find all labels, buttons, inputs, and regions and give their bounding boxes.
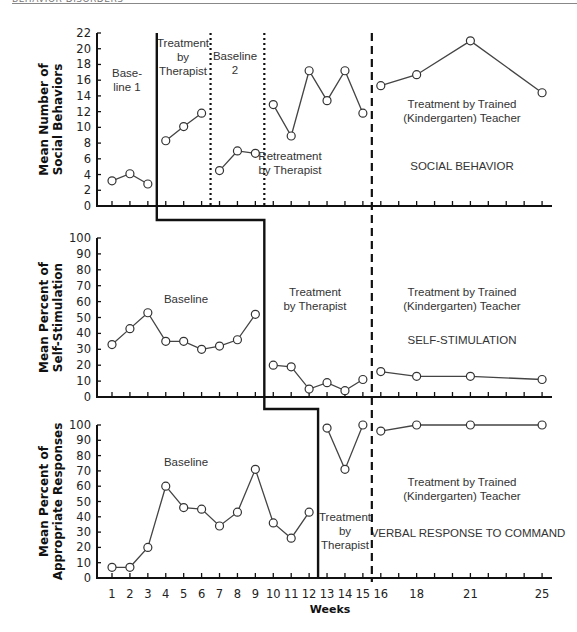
verbal-data-point	[216, 522, 224, 530]
verbal-data-point	[162, 482, 170, 490]
selfstim-phase-label: (Kindergarten) Teacher	[403, 300, 521, 312]
selfstim-y-tick-label: 70	[76, 279, 91, 293]
verbal-data-point	[144, 543, 152, 551]
selfstim-axes	[97, 238, 552, 397]
x-tick-label: 8	[234, 587, 241, 601]
x-tick-label: 16	[373, 587, 388, 601]
selfstim-data-point	[180, 337, 188, 345]
verbal-y-tick-label: 50	[76, 495, 91, 509]
verbal-series-line	[381, 425, 542, 431]
social-phase-label: Treatment	[157, 37, 210, 49]
selfstim-y-tick-label: 0	[84, 390, 91, 404]
selfstim-data-point	[359, 376, 367, 384]
verbal-y-tick-label: 30	[76, 525, 91, 539]
selfstim-data-point	[251, 310, 259, 318]
x-tick-label: 4	[162, 587, 169, 601]
selfstim-y-tick-label: 30	[76, 342, 91, 356]
selfstim-y-tick-label: 50	[76, 311, 91, 325]
x-tick-label: 6	[198, 587, 205, 601]
social-data-point	[233, 147, 241, 155]
social-y-tick-label: 2	[84, 183, 91, 197]
verbal-data-point	[251, 465, 259, 473]
verbal-panel-title: VERBAL RESPONSE TO COMMAND	[371, 527, 566, 539]
verbal-phase-label: Treatment by Trained	[408, 476, 517, 488]
social-y-tick-label: 10	[76, 120, 91, 134]
x-tick-label: 3	[144, 587, 151, 601]
verbal-y-tick-label: 100	[69, 418, 91, 432]
selfstim-y-tick-label: 10	[76, 374, 91, 388]
social-phase-label: Retreatment	[258, 150, 322, 162]
verbal-y-tick-label: 10	[76, 556, 91, 570]
social-phase-label: by Therapist	[258, 164, 322, 176]
selfstim-data-point	[126, 325, 134, 333]
social-phase-label: by	[177, 51, 189, 63]
x-tick-label: 9	[252, 587, 259, 601]
verbal-data-point	[233, 508, 241, 516]
x-tick-label: 21	[463, 587, 478, 601]
verbal-y-tick-label: 60	[76, 479, 91, 493]
social-series-line	[273, 71, 363, 136]
social-y-tick-label: 6	[84, 152, 91, 166]
social-data-point	[198, 109, 206, 117]
verbal-y-tick-label: 90	[76, 433, 91, 447]
selfstim-data-point	[287, 363, 295, 371]
verbal-y-tick-label: 70	[76, 464, 91, 478]
social-phase-label: Therapist	[159, 65, 208, 77]
verbal-phase-label: by	[339, 525, 351, 537]
selfstim-series-line	[381, 372, 542, 380]
selfstim-data-point	[216, 342, 224, 350]
verbal-data-point	[305, 508, 313, 516]
x-tick-label: 7	[216, 587, 223, 601]
verbal-data-point	[108, 563, 116, 571]
verbal-y-tick-label: 40	[76, 510, 91, 524]
verbal-y-tick-label: 0	[84, 571, 91, 585]
verbal-data-point	[287, 534, 295, 542]
social-data-point	[413, 71, 421, 79]
selfstim-y-tick-label: 20	[76, 358, 91, 372]
selfstim-data-point	[198, 345, 206, 353]
selfstim-data-point	[162, 337, 170, 345]
selfstim-data-point	[269, 361, 277, 369]
selfstim-data-point	[341, 387, 349, 395]
x-tick-label: 15	[356, 587, 371, 601]
x-tick-label: 2	[126, 587, 133, 601]
selfstim-y-tick-label: 60	[76, 295, 91, 309]
verbal-series-line	[327, 425, 363, 469]
verbal-data-point	[413, 421, 421, 429]
social-series-line	[381, 41, 542, 93]
x-tick-label: 11	[284, 587, 299, 601]
social-data-point	[108, 177, 116, 185]
verbal-data-point	[538, 421, 546, 429]
social-data-point	[466, 37, 474, 45]
selfstim-data-point	[413, 372, 421, 380]
verbal-y-tick-label: 20	[76, 540, 91, 554]
x-tick-label: 1	[108, 587, 115, 601]
social-data-point	[180, 123, 188, 131]
selfstim-phase-label: by Therapist	[283, 300, 347, 312]
x-tick-label: 14	[338, 587, 353, 601]
social-data-point	[359, 109, 367, 117]
selfstim-data-point	[108, 341, 116, 349]
verbal-y-tick-label: 80	[76, 449, 91, 463]
social-y-tick-label: 20	[76, 42, 91, 56]
selfstim-phase-label: Baseline	[164, 293, 208, 305]
verbal-phase-label: Therapist	[321, 539, 370, 551]
social-data-point	[305, 67, 313, 75]
social-y-axis-label: Social Behaviors	[51, 64, 65, 176]
social-y-tick-label: 14	[76, 89, 91, 103]
selfstim-y-axis-label: Mean Percent of	[37, 261, 51, 373]
selfstim-panel-title: SELF-STIMULATION	[407, 334, 516, 346]
x-tick-label: 25	[535, 587, 550, 601]
selfstim-data-point	[144, 309, 152, 317]
social-data-point	[377, 82, 385, 90]
selfstim-data-point	[538, 376, 546, 384]
social-data-point	[538, 89, 546, 97]
selfstim-data-point	[377, 368, 385, 376]
x-tick-label: 12	[302, 587, 317, 601]
selfstim-y-axis-label: Self-Stimulation	[51, 263, 65, 372]
verbal-data-point	[359, 421, 367, 429]
selfstim-y-tick-label: 80	[76, 263, 91, 277]
social-phase-label: Baseline	[213, 50, 257, 62]
verbal-data-point	[341, 465, 349, 473]
verbal-data-point	[323, 424, 331, 432]
